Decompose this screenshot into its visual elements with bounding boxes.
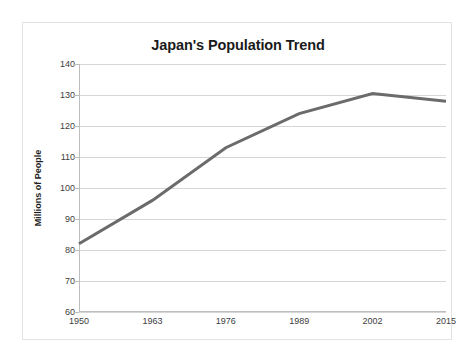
y-axis-tick-label: 90: [35, 214, 75, 224]
chart-figure: Japan's Population Trend Millions of Peo…: [0, 0, 476, 358]
plot-area: [79, 64, 446, 312]
x-axis-tick-labels: 195019631976198920022015: [79, 316, 446, 334]
y-axis-tick-mark: [74, 157, 79, 158]
y-axis-tick-mark: [74, 250, 79, 251]
x-axis-tick-label: 1976: [196, 316, 256, 326]
y-axis-tick-mark: [74, 188, 79, 189]
chart-title: Japan's Population Trend: [23, 37, 453, 53]
x-axis-tick-label: 1963: [122, 316, 182, 326]
chart-frame: Japan's Population Trend Millions of Peo…: [22, 22, 452, 340]
x-axis-tick-label: 2015: [416, 316, 476, 326]
gridline: [79, 312, 446, 313]
y-axis-tick-mark: [74, 281, 79, 282]
series-polyline: [79, 93, 446, 243]
y-axis-tick-label: 100: [35, 183, 75, 193]
y-axis-tick-mark: [74, 219, 79, 220]
y-axis-tick-label: 70: [35, 276, 75, 286]
x-axis-tick-label: 1950: [49, 316, 109, 326]
y-axis-tick-label: 120: [35, 121, 75, 131]
x-axis-tick-label: 1989: [269, 316, 329, 326]
y-axis-tick-label: 130: [35, 90, 75, 100]
x-axis-tick-label: 2002: [343, 316, 403, 326]
y-axis-tick-mark: [74, 126, 79, 127]
y-axis-tick-mark: [74, 312, 79, 313]
y-axis-tick-mark: [74, 64, 79, 65]
y-axis-tick-label: 140: [35, 59, 75, 69]
y-axis-tick-mark: [74, 95, 79, 96]
y-axis-tick-label: 110: [35, 152, 75, 162]
data-series-line: [79, 64, 446, 312]
y-axis-tick-labels: 60708090100110120130140: [33, 64, 75, 312]
y-axis-tick-label: 80: [35, 245, 75, 255]
